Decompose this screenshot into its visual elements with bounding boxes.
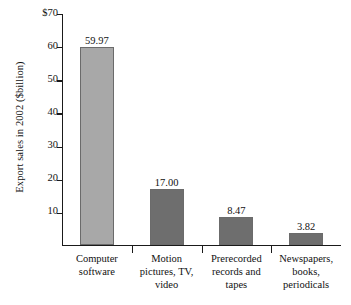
y-axis-tick-label: 20 — [48, 172, 59, 183]
y-axis-title: Export sales in 2002 ($billion) — [14, 4, 32, 250]
category-label-line: books, — [271, 265, 341, 278]
bar-value-label: 8.47 — [227, 205, 245, 216]
category-label-line: software — [62, 265, 132, 278]
y-axis-line — [62, 14, 63, 246]
category-label: Newspapers,books,periodicals — [271, 252, 341, 291]
category-label-line: video — [132, 278, 202, 291]
y-axis-tick-label: $70 — [42, 7, 58, 18]
category-label-line: Prerecorded — [202, 252, 272, 265]
category-label: Computersoftware — [62, 252, 132, 278]
bar: 3.82 — [289, 233, 323, 246]
category-label: Motionpictures, TV,video — [132, 252, 202, 291]
bar: 17.00 — [150, 189, 184, 245]
y-axis-tick-label: 60 — [48, 40, 59, 51]
bar-value-label: 3.82 — [297, 221, 315, 232]
y-axis-tick-label: 50 — [48, 73, 59, 84]
category-label-line: Newspapers, — [271, 252, 341, 265]
y-axis-tick-label: 40 — [48, 106, 59, 117]
category-label: Prerecordedrecords andtapes — [202, 252, 272, 291]
plot-area: $70605040302010 59.9717.008.473.82 — [62, 14, 341, 246]
y-axis-tick-label: 30 — [48, 139, 59, 150]
category-label-line: tapes — [202, 278, 272, 291]
category-label-line: Motion — [132, 252, 202, 265]
bar-value-label: 17.00 — [155, 177, 179, 188]
category-label-line: pictures, TV, — [132, 265, 202, 278]
y-axis-tick-label: 10 — [48, 205, 59, 216]
bar-chart: Export sales in 2002 ($billion) $7060504… — [0, 0, 351, 305]
category-label-line: Computer — [62, 252, 132, 265]
category-label-line: periodicals — [271, 278, 341, 291]
bar: 8.47 — [219, 217, 253, 245]
bar: 59.97 — [80, 47, 114, 246]
category-label-line: records and — [202, 265, 272, 278]
bar-value-label: 59.97 — [85, 35, 109, 46]
